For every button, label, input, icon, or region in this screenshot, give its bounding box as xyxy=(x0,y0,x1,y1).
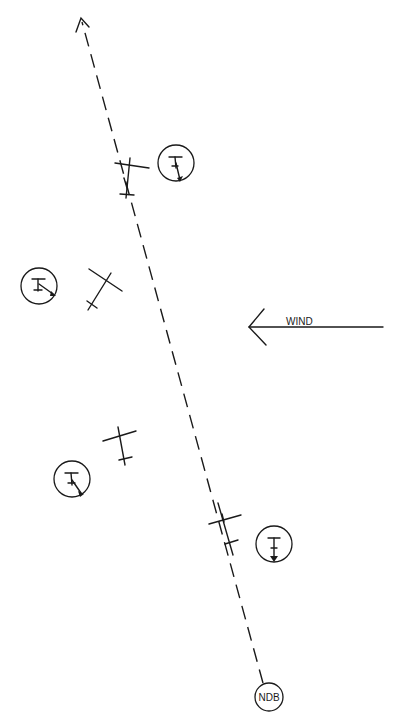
aircraft-symbol xyxy=(209,503,241,555)
aircraft-symbol xyxy=(103,427,136,465)
aircraft-symbol xyxy=(115,158,149,198)
aircraft-position-2 xyxy=(21,268,122,310)
aircraft-position-1 xyxy=(115,145,194,198)
ndb-station: NDB xyxy=(255,683,283,711)
course-line xyxy=(82,22,263,683)
wind-label: WIND xyxy=(286,316,313,327)
ndb-tracking-diagram: WIND NDB xyxy=(0,0,401,722)
needle-indicator xyxy=(21,268,57,304)
aircraft-position-3 xyxy=(54,427,136,497)
wind-arrow: WIND xyxy=(249,309,383,345)
needle-indicator xyxy=(54,461,90,497)
ndb-label: NDB xyxy=(258,692,279,703)
aircraft-symbol xyxy=(87,269,122,310)
figure-caption xyxy=(0,712,401,722)
needle-arrow-icon xyxy=(270,556,278,562)
needle-indicator xyxy=(256,526,292,562)
needle-indicator xyxy=(158,145,194,182)
